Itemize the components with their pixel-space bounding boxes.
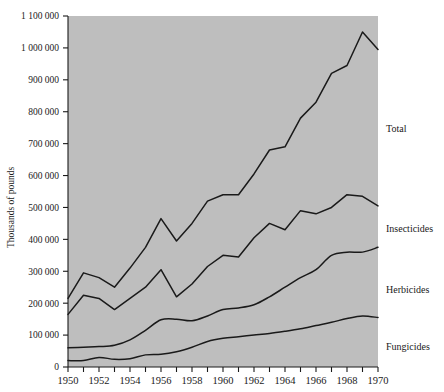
y-axis-tick-label: 1 100 000 [21,11,59,21]
y-axis-tick-label: 200 000 [28,299,59,309]
x-axis-tick-label: 1970 [368,375,389,386]
plot-area-background [68,16,378,367]
plot-background-group [68,16,378,367]
y-axis-tick-label: 500 000 [28,203,59,213]
x-axis-tick-label: 1968 [337,375,358,386]
series-label-insecticides: Insecticides [386,223,433,234]
x-axis-tick-label: 1952 [89,375,110,386]
x-axis-tick-label: 1950 [58,375,79,386]
x-axis-tick-label: 1962 [244,375,265,386]
y-axis-tick-group: 0100 000200 000300 000400 000500 000600 … [21,11,68,372]
y-axis-tick-label: 300 000 [28,267,59,277]
x-axis-tick-label: 1956 [151,375,172,386]
y-axis-tick-label: 100 000 [28,330,59,340]
y-axis-title-group: Thousands of pounds [6,166,16,248]
y-axis-tick-label: 400 000 [28,235,59,245]
series-label-total: Total [386,123,407,134]
series-label-herbicides: Herbicides [386,284,429,295]
x-axis-tick-label: 1964 [275,375,297,386]
series-label-fungicides: Fungicides [386,341,430,352]
series-label-group: TotalInsecticidesHerbicidesFungicides [386,123,433,352]
y-axis-tick-label: 800 000 [28,107,59,117]
y-axis-title: Thousands of pounds [6,166,16,248]
y-axis-tick-label: 900 000 [28,75,59,85]
pesticide-usage-line-chart: 0100 000200 000300 000400 000500 000600 … [0,0,444,392]
y-axis-tick-label: 700 000 [28,139,59,149]
x-axis-tick-label: 1966 [306,375,327,386]
y-axis-tick-label: 1 000 000 [21,43,59,53]
chart-canvas: 0100 000200 000300 000400 000500 000600 … [0,0,444,392]
x-axis-tick-group: 1950195219541956195819601962196419661968… [58,367,389,386]
x-axis-tick-label: 1954 [120,375,142,386]
x-axis-tick-label: 1958 [182,375,203,386]
y-axis-tick-label: 0 [54,362,59,372]
y-axis-tick-label: 600 000 [28,171,59,181]
x-axis-tick-label: 1960 [213,375,234,386]
